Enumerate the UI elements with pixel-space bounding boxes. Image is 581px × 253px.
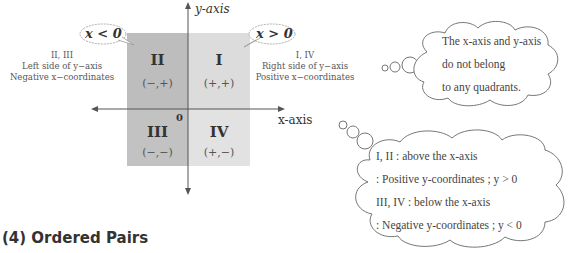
x-axis-arrow-right-icon xyxy=(278,106,285,112)
side-note-left: II, III Left side of y−axis Negative x−c… xyxy=(0,50,124,83)
y-axis-arrow-down-icon xyxy=(185,188,191,195)
cloud-bottom-line-1: I, II : above the x-axis xyxy=(376,145,522,168)
side-note-right-quadrants: I, IV xyxy=(250,50,360,61)
callout-x-greater-than-zero: x > 0 xyxy=(256,26,293,41)
side-note-left-desc: Left side of y−axis xyxy=(0,61,124,72)
side-note-right: I, IV Right side of y−axis Positive x−co… xyxy=(250,50,360,83)
x-axis-label: x-axis xyxy=(278,113,313,127)
callout-x-less-than-zero: x < 0 xyxy=(85,26,122,41)
section-heading: (4) Ordered Pairs xyxy=(2,229,148,247)
origin-label: 0 xyxy=(176,112,183,123)
cloud-bottom-line-2: : Positive y-coordinates ; y > 0 xyxy=(376,168,522,191)
y-axis-label: y-axis xyxy=(195,2,230,16)
side-note-left-quadrants: II, III xyxy=(0,50,124,61)
cloud-top-line-2: do not belong xyxy=(442,53,541,76)
y-axis-arrow-up-icon xyxy=(185,2,191,9)
cloud-top-line-1: The x-axis and y-axis xyxy=(442,30,541,53)
cloud-bottom-line-3: III, IV : below the x-axis xyxy=(376,191,522,214)
cloud-top-line-3: to any quadrants. xyxy=(442,76,541,99)
cloud-bottom-line-4: : Negative y-coordinates ; y < 0 xyxy=(376,214,522,237)
cloud-bottom-text: I, II : above the x-axis : Positive y-co… xyxy=(376,145,522,237)
cloud-top-text: The x-axis and y-axis do not belong to a… xyxy=(442,30,541,99)
side-note-left-coords: Negative x−coordinates xyxy=(0,72,124,83)
side-note-right-coords: Positive x−coordinates xyxy=(250,72,360,83)
x-axis-arrow-left-icon xyxy=(91,106,98,112)
side-note-right-desc: Right side of y−axis xyxy=(250,61,360,72)
